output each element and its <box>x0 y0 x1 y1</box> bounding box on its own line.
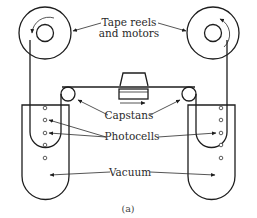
label-photocells: Photocells <box>105 130 160 142</box>
figure-caption: (a) <box>121 203 134 214</box>
photocells-left <box>43 106 47 160</box>
label-and-motors: and motors <box>99 27 159 39</box>
right-capstan <box>182 87 196 101</box>
tape-drive-diagram: Tape reels and motors Capstans Photocell… <box>0 0 257 218</box>
photocells-right <box>219 106 223 160</box>
left-tape-reel <box>19 7 71 59</box>
right-vacuum-column <box>188 40 235 199</box>
label-vacuum: Vacuum <box>108 166 151 178</box>
left-capstan <box>61 87 75 101</box>
right-tape-reel <box>187 7 239 59</box>
read-write-head <box>119 73 148 103</box>
label-capstans: Capstans <box>104 109 153 121</box>
